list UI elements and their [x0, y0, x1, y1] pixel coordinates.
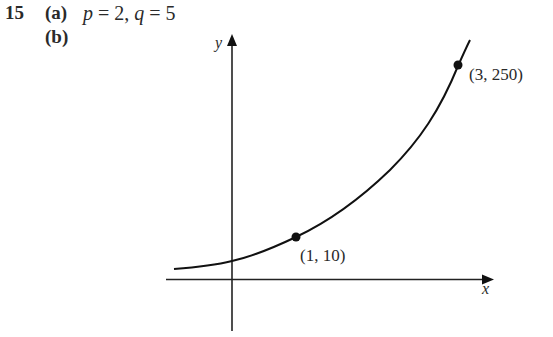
point-1-10 — [292, 233, 301, 242]
point-1-label: (1, 10) — [300, 246, 345, 265]
y-axis-label: y — [213, 34, 223, 52]
exponential-graph: (1, 10) (3, 250) x y — [0, 0, 553, 337]
x-axis-label: x — [481, 280, 489, 297]
point-2-label: (3, 250) — [469, 65, 523, 84]
y-axis-arrowhead-icon — [227, 34, 237, 46]
exponential-curve — [174, 40, 470, 269]
point-3-250 — [454, 61, 463, 70]
